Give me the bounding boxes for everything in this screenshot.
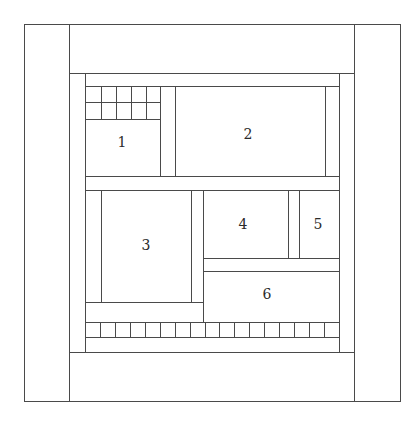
panel-label-2: 2 — [244, 127, 253, 141]
panel-3-bottom-edge — [85, 302, 203, 303]
grid-col-line — [146, 86, 147, 119]
grid-col-line — [131, 86, 132, 119]
panel-6-top-edge — [203, 271, 339, 272]
middle-rail-top — [85, 176, 339, 177]
tile-divider — [115, 322, 116, 337]
panel-2-left-edge — [175, 86, 176, 176]
panel-1-right-edge — [160, 86, 161, 176]
panel-label-3: 3 — [142, 238, 151, 252]
tile-divider — [205, 322, 206, 337]
tile-divider — [294, 322, 295, 337]
tile-divider — [160, 322, 161, 337]
tile-divider — [100, 322, 101, 337]
panel-4-left-edge — [203, 190, 204, 322]
tile-divider — [324, 322, 325, 337]
inner-frame-right — [339, 74, 340, 353]
bottom-border-strip-edge — [69, 352, 355, 353]
tile-divider — [130, 322, 131, 337]
panel-4-5-bottom-edge — [203, 258, 339, 259]
panel-3-right-edge — [191, 190, 192, 302]
outer-border-top — [24, 24, 401, 25]
top-rail-edge — [85, 86, 339, 87]
outer-border-right — [400, 24, 401, 402]
tile-divider — [309, 322, 310, 337]
panel-label-6: 6 — [263, 287, 272, 301]
panel-label-4: 4 — [239, 217, 248, 231]
tile-divider — [234, 322, 235, 337]
grid-col-line — [101, 86, 102, 119]
outer-border-left — [24, 24, 25, 402]
tile-divider — [219, 322, 220, 337]
left-border-strip-edge — [69, 24, 70, 402]
grid-bottom-line — [85, 119, 160, 120]
tile-divider — [190, 322, 191, 337]
tile-strip-top — [85, 322, 339, 323]
middle-rail-bottom — [85, 190, 339, 191]
right-border-strip-edge — [354, 24, 355, 402]
panel-3-left-edge — [101, 190, 102, 302]
tile-divider — [249, 322, 250, 337]
panel-5-left-edge — [299, 190, 300, 258]
tile-divider — [175, 322, 176, 337]
panel-label-1: 1 — [118, 135, 127, 149]
outer-border-bottom — [24, 401, 401, 402]
top-border-strip-edge — [69, 73, 355, 74]
panel-2-right-edge — [325, 86, 326, 176]
tile-divider — [145, 322, 146, 337]
panel-label-5: 5 — [314, 217, 323, 231]
tile-divider — [264, 322, 265, 337]
grid-row-line — [85, 102, 160, 103]
quilt-diagram: 1 2 3 4 5 6 — [0, 0, 418, 426]
grid-col-line — [116, 86, 117, 119]
inner-frame-left — [85, 73, 86, 353]
tile-strip-bottom — [85, 337, 339, 338]
panel-4-right-edge — [288, 190, 289, 258]
tile-divider — [279, 322, 280, 337]
